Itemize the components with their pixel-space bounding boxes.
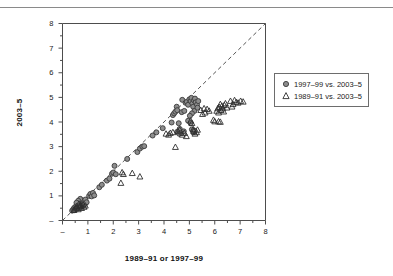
data-point <box>187 113 192 118</box>
data-point <box>125 156 130 161</box>
y-tick-label: – <box>42 216 54 225</box>
data-point <box>113 172 118 177</box>
data-point <box>129 170 135 175</box>
data-point <box>172 144 178 149</box>
legend-item-circle[interactable]: 1997–99 vs. 2003–5 <box>280 78 362 90</box>
chart-figure: –12345678–12345678 1989–91 or 1997–99 20… <box>0 0 393 276</box>
circle-marker-icon <box>280 78 292 90</box>
x-tick-label: 7 <box>231 227 249 236</box>
x-tick-label: – <box>54 227 72 236</box>
data-points <box>70 95 246 213</box>
data-point <box>169 120 174 125</box>
y-tick-label: 7 <box>42 44 54 53</box>
data-point <box>92 193 97 198</box>
data-point <box>196 99 201 104</box>
x-tick-label: 6 <box>206 227 224 236</box>
triangle-marker-icon <box>280 90 292 102</box>
series-triangles <box>71 97 246 212</box>
y-tick-label: 8 <box>42 19 54 28</box>
data-point <box>142 144 147 149</box>
data-point <box>120 171 126 176</box>
data-point <box>99 182 104 187</box>
x-tick-label: 3 <box>130 227 148 236</box>
data-point <box>160 126 165 131</box>
data-point <box>176 121 181 126</box>
x-tick-label: 5 <box>180 227 198 236</box>
legend-item-triangle[interactable]: 1989–91 vs. 2003–5 <box>280 90 362 102</box>
y-tick-label: 1 <box>42 191 54 200</box>
y-axis-title: 2003–5 <box>15 83 24 143</box>
y-tick-label: 4 <box>42 118 54 127</box>
x-tick-label: 8 <box>257 227 275 236</box>
x-tick-label: 1 <box>79 227 97 236</box>
x-tick-label: 2 <box>104 227 122 236</box>
x-axis-title: 1989–91 or 1997–99 <box>62 254 266 263</box>
y-tick-label: 6 <box>42 68 54 77</box>
y-tick-label: 3 <box>42 142 54 151</box>
legend-label-triangle: 1989–91 vs. 2003–5 <box>294 92 362 101</box>
x-tick-label: 4 <box>155 227 173 236</box>
y-tick-label: 2 <box>42 167 54 176</box>
series-circles <box>70 95 201 213</box>
y-tick-label: 5 <box>42 93 54 102</box>
data-point <box>137 174 143 179</box>
data-point <box>118 180 124 185</box>
data-point <box>154 130 159 135</box>
data-point <box>112 163 117 168</box>
data-point <box>182 108 187 113</box>
data-point <box>107 176 112 181</box>
legend-label-circle: 1997–99 vs. 2003–5 <box>294 80 362 89</box>
chart-legend: 1997–99 vs. 2003–5 1989–91 vs. 2003–5 <box>274 73 369 107</box>
